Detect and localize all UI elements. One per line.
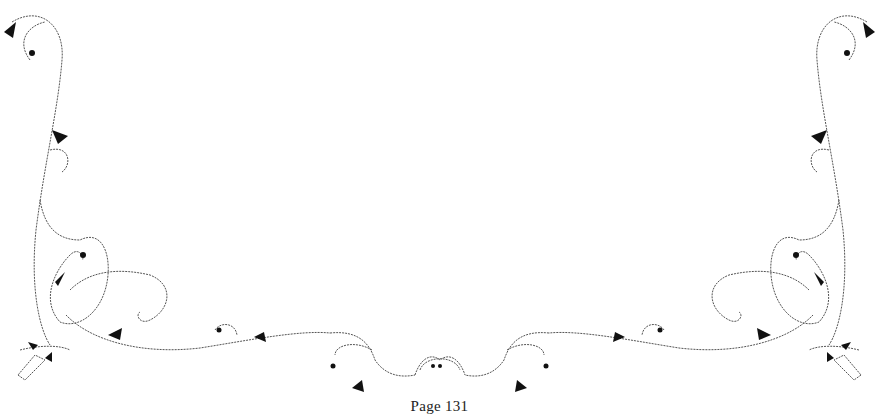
center-knot [415, 357, 465, 375]
right-vine [465, 16, 875, 392]
page-number: Page 131 [0, 398, 879, 415]
left-vine [4, 16, 415, 392]
floral-border-ornament [0, 0, 879, 418]
